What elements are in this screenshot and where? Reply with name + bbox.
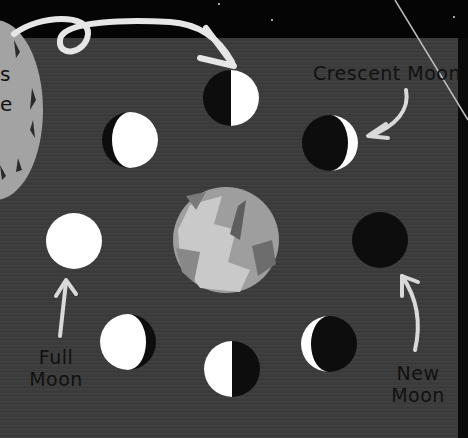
moon-waxing-gibbous-icon — [102, 112, 158, 168]
moon-waxing-crescent-icon — [302, 115, 358, 171]
moon-last-quarter-icon — [204, 341, 260, 397]
full-moon-label-line2: Moon — [26, 368, 86, 390]
moon-new-moon-icon — [352, 212, 408, 268]
full-moon-label-line1: Full — [26, 346, 86, 368]
moon-full-moon-icon — [46, 213, 102, 269]
new-moon-label-line1: New — [388, 362, 448, 384]
new-moon-arrow-icon — [402, 276, 418, 350]
moon-waning-crescent-icon — [301, 316, 357, 372]
crescent-moon-label: Crescent Moon — [312, 62, 462, 84]
moon-waning-gibbous-icon — [100, 314, 156, 370]
new-moon-label-line2: Moon — [388, 384, 448, 406]
partial-text: e — [0, 92, 12, 116]
earth-icon — [173, 187, 279, 293]
new-moon-label: New Moon — [388, 362, 448, 406]
full-moon-label: Full Moon — [26, 346, 86, 390]
partial-text: s — [0, 62, 10, 86]
moon-first-quarter-icon — [203, 70, 259, 126]
